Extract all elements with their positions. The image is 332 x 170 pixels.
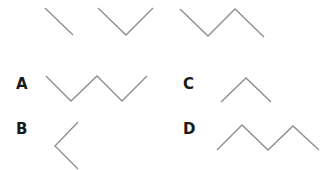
diagram-canvas xyxy=(0,0,332,170)
sequence-zigzag-1 xyxy=(45,8,73,35)
option-zigzag-d xyxy=(217,125,319,150)
sequence-zigzag-3 xyxy=(180,9,264,37)
option-label-a: A xyxy=(16,77,28,92)
option-zigzag-a xyxy=(46,76,147,101)
option-zigzag-b xyxy=(55,122,78,169)
option-label-c: C xyxy=(183,77,194,92)
option-label-d: D xyxy=(183,122,195,137)
option-label-b: B xyxy=(16,122,27,137)
option-zigzag-c xyxy=(221,78,271,102)
sequence-row xyxy=(45,8,264,37)
sequence-zigzag-2 xyxy=(98,8,153,35)
